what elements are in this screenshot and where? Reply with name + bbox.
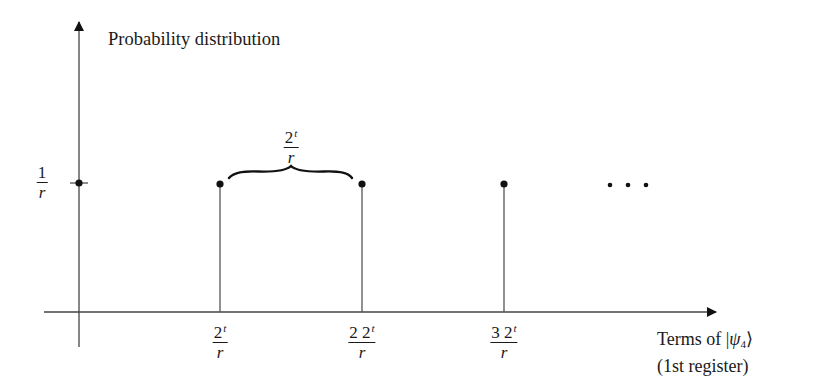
x-tick-label-3: 3 2t r bbox=[490, 320, 517, 360]
x-tick-label-2: 2 2t r bbox=[348, 320, 375, 360]
stem-2 bbox=[358, 180, 365, 312]
stem-1 bbox=[216, 180, 223, 312]
brace-label: 2t r bbox=[284, 125, 299, 165]
y-tick-denominator: r bbox=[39, 185, 46, 200]
x-axis-label-line2: (1st register) bbox=[657, 355, 753, 377]
brace-annotation bbox=[229, 166, 352, 178]
data-point-origin bbox=[75, 179, 82, 186]
y-axis-title: Probability distribution bbox=[108, 30, 280, 49]
brace-label-numerator: 2t bbox=[284, 125, 299, 146]
y-tick-numerator: 1 bbox=[37, 164, 48, 181]
brace-label-denominator: r bbox=[288, 150, 295, 165]
x-tick-label-1: 2t r bbox=[213, 320, 228, 360]
continuation-ellipsis-icon bbox=[608, 183, 649, 188]
stem-3 bbox=[500, 180, 507, 312]
probability-distribution-figure: Probability distribution 1 r 2t r 2t r 2… bbox=[0, 0, 815, 392]
x-axis-label: Terms of |ψ4⟩ (1st register) bbox=[657, 328, 753, 377]
y-tick-label: 1 r bbox=[37, 164, 48, 200]
x-axis-label-line1: Terms of |ψ4⟩ bbox=[657, 328, 753, 355]
